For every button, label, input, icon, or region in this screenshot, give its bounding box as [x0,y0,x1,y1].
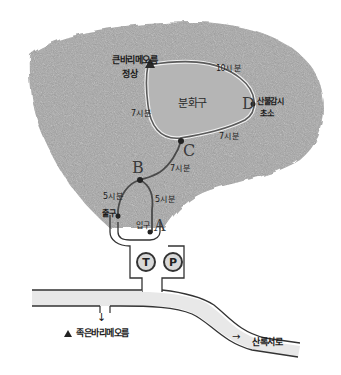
crater-label: 분화구 [178,98,207,109]
road-right-arrow-icon: → [232,332,240,342]
point-a-letter: A [154,218,165,234]
exit-dot [116,214,121,219]
road-right-destination: 산록서로 [252,338,282,347]
entrance-dot [148,230,153,235]
point-b-letter: B [132,160,143,176]
segment-c-to-d-time: 7시 분 [219,133,239,141]
exit-label: 출구 [102,210,115,218]
junction-b-dot [137,177,143,183]
peak-label: 큰바리메오름 [112,56,157,65]
small-peak-icon [64,330,72,337]
segment-c-to-peak-time: 7시 분 [131,110,151,118]
point-d-label: 산불감시 [257,98,283,106]
point-d-sublabel: 초소 [260,110,273,118]
peak-summit-label: 정상 [122,70,137,79]
trail-map-canvas [0,0,341,375]
segment-top-right-time: 10시 분 [216,65,240,73]
parking-icon: P [163,252,183,272]
road-left-destination: 족은바리메오름 [76,329,129,338]
entrance-label: 입구 [136,222,149,230]
segment-b-to-c-time: 7시 분 [170,165,190,173]
segment-exit-to-b-time: 5시 분 [103,193,123,201]
road-left-arrow-icon: ↓ [97,312,106,323]
point-d-letter: D [242,96,254,112]
segment-a-to-b-time: 5시 분 [155,196,175,204]
toilet-icon: T [136,252,156,272]
point-c-letter: C [183,143,195,159]
